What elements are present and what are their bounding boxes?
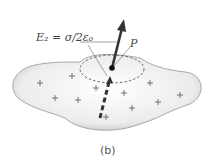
- field-label: E₂ = σ/2ε₀: [36, 31, 93, 44]
- diagram-canvas: [0, 0, 219, 166]
- point-p-dot: [109, 65, 115, 71]
- point-label: P: [130, 37, 137, 50]
- figure-caption: (b): [100, 144, 116, 157]
- field-arrow-head: [117, 19, 126, 32]
